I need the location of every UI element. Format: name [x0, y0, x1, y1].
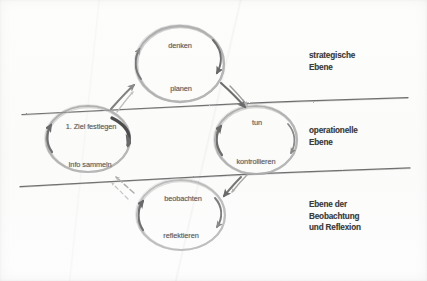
cycle4-right-arrow [215, 198, 221, 227]
connector-kontrollieren-to-beobachten [224, 175, 247, 196]
band-label-strategische-ebene: strategische Ebene [309, 50, 355, 73]
cycle-label-reflektieren: reflektieren [163, 231, 198, 240]
band-label-operationelle-ebene: operationelle Ebene [309, 125, 358, 148]
cycle-label-kontrollieren: kontrollieren [237, 157, 276, 166]
cycle-label-planen: planen [170, 84, 192, 93]
cycle-label-tun: tun [252, 118, 262, 127]
pencil-artwork-layer [0, 0, 427, 281]
band-label-ebene-beobachtung: Ebene der Beobachtung und Reflexion [309, 199, 361, 234]
cycle-label-denken: denken [168, 41, 192, 50]
cycle-label-ziel-festlegen: 1. Ziel festlegen [66, 122, 116, 131]
cycle-label-info-sammeln: Info sammeln [68, 160, 111, 169]
diagram-canvas: denken planen 1. Ziel festlegen Info sam… [0, 0, 427, 281]
cycle-beobachten-reflektieren [135, 178, 225, 250]
connector-ziel-to-denken [111, 85, 134, 112]
cycle-label-beobachten: beobachten [164, 194, 202, 203]
